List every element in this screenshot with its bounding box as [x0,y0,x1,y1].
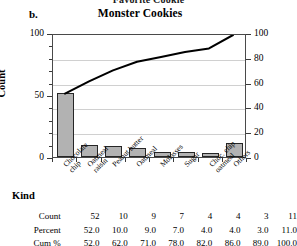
y-axis-left-tick-label: 100 [18,29,44,39]
y-axis-left-tick-minor [49,59,52,60]
table-cell: 52.0 [67,224,100,238]
table-cell: 86.0 [212,237,240,246]
panel-letter: b. [29,8,38,20]
table-cell: 100.0 [269,237,297,246]
y-axis-right-tick-label: 0 [254,153,280,163]
table-cell: 4.0 [184,224,212,238]
y-axis-right-tick-label: 20 [254,128,280,138]
table-cell: 10.0 [100,224,128,238]
y-axis-left-tick-minor [49,146,52,147]
table-cell: 4 [212,210,240,224]
figure-panel: Favorite Cookie b. Monster Cookies Count… [0,0,297,246]
y-axis-left-tick-minor [49,108,52,109]
table-cell: 89.0 [240,237,268,246]
y-axis-left-tick-label: 0 [18,153,44,163]
table-cell: 4 [184,210,212,224]
table-cell: 52.0 [67,237,100,246]
table-cell: 78.0 [156,237,184,246]
table-cell: 3 [240,210,268,224]
table-row: Cum %52.062.071.078.082.086.089.0100.0 [0,237,297,246]
pareto-plot-area [52,34,246,158]
y-axis-right-tick-label: 80 [254,54,280,64]
y-axis-left-tick-major [47,34,52,35]
y-axis-left-tick-minor [49,121,52,122]
y-axis-right-tick [246,108,251,109]
table-row-label: Count [0,210,67,224]
table-cell: 71.0 [128,237,156,246]
table-cell: 4.0 [212,224,240,238]
table-cell: 9.0 [128,224,156,238]
x-axis-label: Kind [12,190,35,201]
table-cell: 11 [269,210,297,224]
y-axis-right-tick-label: 100 [254,29,280,39]
table-row-label: Percent [0,224,67,238]
y-axis-right-tick-label: 40 [254,103,280,113]
chart-title: Monster Cookies [52,7,228,19]
y-axis-right-tick [246,133,251,134]
table-cell: 62.0 [100,237,128,246]
y-axis-right-tick [246,34,251,35]
table-cell: 52 [67,210,100,224]
table-row: Count52109744311 [0,210,297,224]
data-table: Count52109744311Percent52.010.09.07.04.0… [0,210,297,246]
y-axis-label: Count [0,69,7,97]
y-axis-left-tick-minor [49,133,52,134]
table-cell: 3.0 [240,224,268,238]
table-row: Percent52.010.09.07.04.04.03.011.0 [0,224,297,238]
y-axis-left-tick-minor [49,71,52,72]
table-cell: 7.0 [156,224,184,238]
y-axis-left-tick-major [47,96,52,97]
table-cell: 11.0 [269,224,297,238]
y-axis-left-tick-minor [49,46,52,47]
table-row-label: Cum % [0,237,67,246]
y-axis-right-tick [246,84,251,85]
cumulative-percent-line [53,35,245,157]
y-axis-left-tick-label: 50 [18,91,44,101]
table-cell: 82.0 [184,237,212,246]
y-axis-right-tick [246,59,251,60]
y-axis-right-tick-label: 60 [254,79,280,89]
x-axis-tick [52,158,53,162]
table-cell: 9 [128,210,156,224]
figure-super-title: Favorite Cookie [0,0,297,5]
table-cell: 10 [100,210,128,224]
table-cell: 7 [156,210,184,224]
y-axis-left-tick-minor [49,84,52,85]
